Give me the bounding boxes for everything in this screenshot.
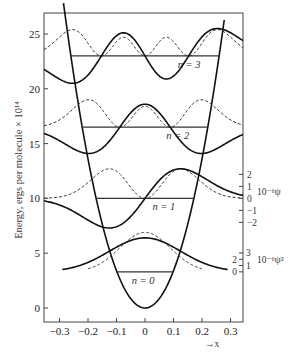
x-tick-label: 0 <box>142 325 148 337</box>
psi-tick-label: 1 <box>247 182 252 192</box>
psi-tick-label: −2 <box>247 218 257 228</box>
y-tick-label: 15 <box>29 138 41 150</box>
y-axis-title: Energy, ergs per molecule × 10¹⁴ <box>13 101 24 239</box>
psi-tick-label: 0 <box>247 194 252 204</box>
y-tick-label: 25 <box>29 28 41 40</box>
psi-tick-label: 2 <box>247 170 252 180</box>
x-tick-label: −0.3 <box>50 325 70 337</box>
psi2-tick-label: 1 <box>246 261 251 271</box>
psi2-tick-label: 0 <box>232 267 237 277</box>
y-tick-label: 0 <box>35 302 41 314</box>
energy-level-label: n = 0 <box>132 275 156 286</box>
psi2-axis-label: 10⁻⁶ψ² <box>257 255 284 265</box>
x-tick-label: 0.1 <box>167 325 181 337</box>
x-axis-title: →x <box>205 339 220 349</box>
psi-curve-n2 <box>44 104 243 153</box>
y-tick-label: 10 <box>29 192 41 204</box>
energy-level-label: n = 1 <box>152 201 175 212</box>
y-tick-label: 5 <box>35 247 41 259</box>
psi2-tick-label: 3 <box>246 248 251 258</box>
psi-curve-n0 <box>62 238 227 270</box>
psi-axis-label: 10⁻⁶ψ <box>257 187 281 197</box>
harmonic-oscillator-chart: n = 0n = 1n = 2n = 3 −0.3−0.2−0.100.10.2… <box>0 0 297 359</box>
x-tick-label: −0.1 <box>107 325 127 337</box>
y-tick-label: 20 <box>29 83 41 95</box>
x-tick-label: 0.2 <box>195 325 209 337</box>
psi-tick-label: −1 <box>247 206 257 216</box>
psi2-tick-label: 2 <box>232 255 237 265</box>
x-tick-label: 0.3 <box>224 325 238 337</box>
energy-level-label: n = 2 <box>166 130 190 141</box>
x-tick-label: −0.2 <box>78 325 98 337</box>
